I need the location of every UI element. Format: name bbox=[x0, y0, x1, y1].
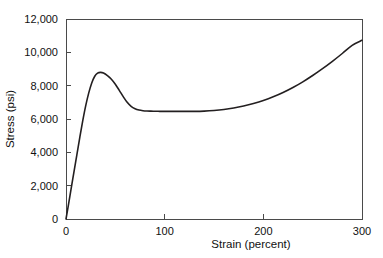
x-axis-title: Strain (percent) bbox=[211, 238, 290, 250]
stress-strain-chart: 02,0004,0006,0008,00010,00012,000 010020… bbox=[0, 0, 383, 258]
y-axis-title: Stress (psi) bbox=[4, 90, 16, 148]
y-tick-label: 4,000 bbox=[30, 146, 58, 158]
x-tick-label: 300 bbox=[353, 225, 371, 237]
y-tick-label: 12,000 bbox=[24, 13, 58, 25]
x-tick-label: 100 bbox=[155, 225, 173, 237]
y-tick-label: 8,000 bbox=[30, 80, 58, 92]
x-tick-label: 0 bbox=[63, 225, 69, 237]
y-tick-label: 10,000 bbox=[24, 46, 58, 58]
y-tick-label: 0 bbox=[52, 213, 58, 225]
y-tick-label: 6,000 bbox=[30, 113, 58, 125]
x-tick-label: 200 bbox=[254, 225, 272, 237]
y-tick-label: 2,000 bbox=[30, 180, 58, 192]
